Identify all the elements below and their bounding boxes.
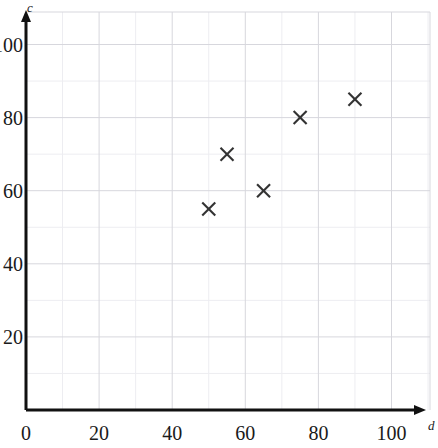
x-tick-label-60: 60 bbox=[235, 423, 255, 443]
y-tick-label-80: 80 bbox=[3, 108, 23, 128]
x-axis-label: d bbox=[428, 419, 435, 432]
y-tick-label-40: 40 bbox=[3, 254, 23, 274]
x-tick-label-80: 80 bbox=[308, 423, 328, 443]
x-tick-label-0: 0 bbox=[21, 423, 31, 443]
grid-minor-lines bbox=[26, 12, 430, 410]
scatter-plot-figure: 020406080100 20406080100 d c bbox=[0, 0, 438, 448]
x-tick-label-100: 100 bbox=[377, 423, 407, 443]
grid-major-lines bbox=[26, 12, 430, 410]
y-axis-label: c bbox=[27, 1, 33, 14]
y-tick-label-60: 60 bbox=[3, 181, 23, 201]
x-axis-arrow-icon bbox=[414, 405, 426, 415]
x-tick-label-40: 40 bbox=[162, 423, 182, 443]
y-tick-label-100: 100 bbox=[0, 35, 23, 55]
y-tick-label-20: 20 bbox=[3, 327, 23, 347]
plot-canvas bbox=[0, 0, 438, 448]
axis-lines bbox=[21, 10, 426, 415]
x-tick-label-20: 20 bbox=[89, 423, 109, 443]
